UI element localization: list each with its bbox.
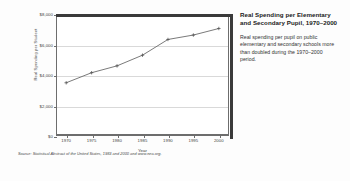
y-tick-label: $6,000 xyxy=(19,42,53,47)
y-tick-label: $4,000 xyxy=(19,73,53,78)
data-point-marker xyxy=(64,81,67,84)
data-series-line xyxy=(56,14,229,136)
figure-root: Real Spending per Student $0$2,000$4,000… xyxy=(0,0,350,181)
panel-body-text: Real spending per pupil on public elemen… xyxy=(240,34,340,64)
data-point-marker xyxy=(90,71,93,74)
y-tick-label: $0 xyxy=(19,134,53,139)
data-point-marker xyxy=(192,33,195,36)
y-tick-label: $8,000 xyxy=(19,12,53,17)
panel-title: Real Spending per Elementary and Seconda… xyxy=(240,11,340,28)
side-panel: Real Spending per Elementary and Seconda… xyxy=(240,11,340,63)
y-tick-label: $2,000 xyxy=(19,103,53,108)
chart-container: Real Spending per Student $0$2,000$4,000… xyxy=(18,8,230,156)
plot-right-border xyxy=(230,14,233,139)
y-axis-tick-group: $0$2,000$4,000$6,000$8,000 xyxy=(18,8,53,156)
data-point-marker xyxy=(115,64,118,67)
data-point-marker xyxy=(217,27,220,30)
source-note: Source: Statistical Abstract of the Unit… xyxy=(18,151,318,156)
x-tick-label: 2000 xyxy=(204,138,234,143)
